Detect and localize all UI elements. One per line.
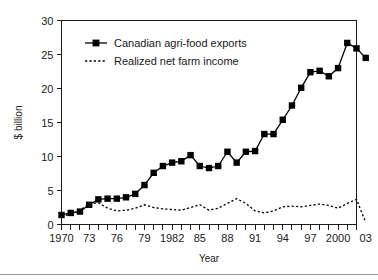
line-chart: 0510152025301970737679198285889194972000… <box>0 0 378 280</box>
y-tick-label: 5 <box>47 185 53 197</box>
data-point-marker <box>270 131 276 137</box>
data-point-marker <box>344 40 350 46</box>
legend-swatch-marker-exports <box>93 40 100 47</box>
data-point-marker <box>363 55 369 61</box>
data-point-marker <box>187 152 193 158</box>
data-point-marker <box>289 102 295 108</box>
data-point-marker <box>58 212 64 218</box>
data-point-marker <box>233 159 239 165</box>
data-point-marker <box>197 163 203 169</box>
y-axis-title: $ billion <box>13 106 24 140</box>
data-point-marker <box>169 159 175 165</box>
y-tick-label: 10 <box>41 151 53 163</box>
data-point-marker <box>104 195 110 201</box>
data-point-marker <box>261 131 267 137</box>
y-axis: 051015202530 <box>41 15 61 231</box>
y-tick-label: 25 <box>41 49 53 61</box>
chart-figure: 0510152025301970737679198285889194972000… <box>0 0 378 280</box>
data-point-marker <box>298 85 304 91</box>
x-tick-label: 85 <box>194 232 206 244</box>
data-point-marker <box>68 210 74 216</box>
x-axis: 197073767919828588919497200003 <box>49 225 372 244</box>
data-point-marker <box>335 65 341 71</box>
data-point-marker <box>141 182 147 188</box>
legend: Canadian agri-food exportsRealized net f… <box>85 37 247 67</box>
x-tick-label: 73 <box>83 232 95 244</box>
x-tick-label: 91 <box>249 232 261 244</box>
x-tick-label: 76 <box>111 232 123 244</box>
data-point-marker <box>150 170 156 176</box>
x-tick-label: 03 <box>360 232 372 244</box>
x-tick-label: 1970 <box>49 232 73 244</box>
data-point-marker <box>215 163 221 169</box>
data-point-marker <box>224 149 230 155</box>
data-point-marker <box>114 195 120 201</box>
data-point-marker <box>95 196 101 202</box>
x-tick-label: 79 <box>138 232 150 244</box>
y-tick-label: 30 <box>41 15 53 27</box>
data-point-marker <box>326 73 332 79</box>
legend-label-farm-income: Realized net farm income <box>114 55 239 67</box>
data-point-marker <box>178 158 184 164</box>
data-point-marker <box>86 202 92 208</box>
x-tick-label: 97 <box>304 232 316 244</box>
x-tick-label: 1982 <box>160 232 184 244</box>
data-point-marker <box>77 208 83 214</box>
data-point-marker <box>252 148 258 154</box>
series-realized-net-farm-income <box>62 199 366 223</box>
data-point-marker <box>353 45 359 51</box>
data-point-marker <box>243 149 249 155</box>
data-point-marker <box>132 191 138 197</box>
y-tick-label: 20 <box>41 83 53 95</box>
data-point-marker <box>307 69 313 75</box>
data-point-marker <box>280 117 286 123</box>
data-point-marker <box>123 194 129 200</box>
x-tick-label: 2000 <box>326 232 350 244</box>
x-tick-label: 94 <box>277 232 289 244</box>
data-point-marker <box>316 68 322 74</box>
y-tick-label: 0 <box>47 219 53 231</box>
data-point-marker <box>206 165 212 171</box>
x-tick-label: 88 <box>221 232 233 244</box>
data-point-marker <box>160 163 166 169</box>
legend-label-exports: Canadian agri-food exports <box>114 37 247 49</box>
axis-frame <box>62 21 357 225</box>
x-axis-title: Year <box>199 253 220 264</box>
y-tick-label: 15 <box>41 117 53 129</box>
